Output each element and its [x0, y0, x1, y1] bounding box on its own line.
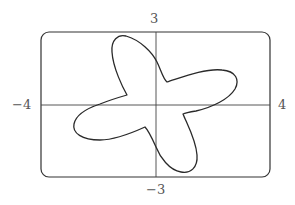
y-min-label: −3: [146, 183, 165, 196]
rose-curve: [74, 36, 237, 173]
graph-plot: [0, 0, 295, 205]
x-max-label: 4: [278, 98, 286, 111]
viewing-window-frame: [41, 32, 270, 177]
x-min-label: −4: [12, 98, 31, 111]
y-max-label: 3: [150, 12, 158, 25]
